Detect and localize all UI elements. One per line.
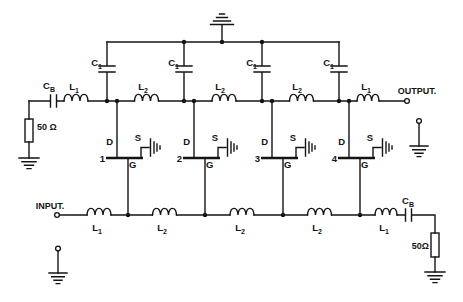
inductor-label: L1 <box>361 81 371 94</box>
bias-cap-1: C1 <box>91 42 115 101</box>
drain-label: D <box>183 136 190 147</box>
inductor-label: L1 <box>69 81 79 94</box>
gate-label: G <box>206 159 213 170</box>
bias-cap-label: C1 <box>323 57 334 70</box>
inductor-label: L1 <box>379 222 389 235</box>
capacitor-icon <box>331 42 347 101</box>
schematic-canvas: C1 C1 C1 C1 CB L1 L2 L2 L2 L1 <box>0 0 463 302</box>
bias-cap-2: C1 <box>168 42 192 101</box>
drain-label: D <box>338 136 345 147</box>
distributed-amplifier-schematic: C1 C1 C1 C1 CB L1 L2 L2 L2 L1 <box>0 0 463 302</box>
ground-icon <box>410 146 428 157</box>
fet-number: 3 <box>255 153 260 164</box>
input-terminal-node <box>55 213 60 218</box>
drain-label: D <box>106 136 113 147</box>
source-label: S <box>135 132 141 143</box>
source-ground-icon <box>228 139 238 156</box>
inductor-label: L2 <box>292 81 302 94</box>
inductor-label: L2 <box>157 222 167 235</box>
resistor-icon <box>431 233 439 257</box>
source-label: S <box>290 132 296 143</box>
fet-4: 4 D S G <box>332 101 392 215</box>
inductor-label: L2 <box>312 222 322 235</box>
inductor-icon <box>212 94 236 101</box>
input-label: INPUT. <box>36 201 65 211</box>
termination-resistor-label: 50Ω <box>412 241 429 251</box>
gate-line: L1 L2 L2 L2 L1 CB <box>59 195 435 235</box>
output-label: OUTPUT. <box>398 86 437 96</box>
source-label: S <box>367 132 373 143</box>
inductor-icon <box>64 94 88 101</box>
right-termination: 50Ω <box>412 233 445 283</box>
resistor-icon <box>25 119 33 142</box>
input-ground-terminal <box>49 246 67 283</box>
inductor-label: L2 <box>235 222 245 235</box>
gate-label: G <box>361 159 368 170</box>
coupling-capacitor-icon <box>406 209 412 221</box>
bias-cap-label: C1 <box>91 57 102 70</box>
fet-1: 1 D S G <box>100 101 160 215</box>
inductor-label: L2 <box>215 81 225 94</box>
inductor-icon <box>230 208 254 215</box>
inductor-icon <box>153 208 177 215</box>
ground-terminal-node <box>417 119 422 124</box>
fet-number: 1 <box>100 153 106 164</box>
source-ground-icon <box>306 139 316 156</box>
output-ground-terminal <box>410 119 428 157</box>
termination-resistor-label: 50 Ω <box>37 122 57 132</box>
ground-icon <box>49 273 67 284</box>
inductor-icon <box>357 94 379 101</box>
bias-cap-label: C1 <box>168 57 179 70</box>
inductor-label: L1 <box>92 222 102 235</box>
capacitor-icon <box>99 42 115 101</box>
capacitor-icon <box>254 42 270 101</box>
junction-dot <box>220 40 224 44</box>
fet-3: 3 D S G <box>255 101 315 215</box>
inductor-label: L2 <box>138 81 148 94</box>
output-terminal-node <box>405 99 410 104</box>
junction-dot <box>337 99 341 103</box>
gate-label: G <box>129 159 136 170</box>
inductor-icon <box>308 208 332 215</box>
source-ground-icon <box>383 139 393 156</box>
ground-icon <box>19 158 39 169</box>
fet-number: 4 <box>332 153 338 164</box>
ground-terminal-node <box>56 246 61 251</box>
ground-icon <box>425 272 445 283</box>
bias-cap-4: C1 <box>323 42 347 101</box>
fet-2: 2 D S G <box>177 101 237 215</box>
source-label: S <box>212 132 218 143</box>
coupling-cap-label: CB <box>43 80 55 93</box>
coupling-cap-label: CB <box>402 195 414 208</box>
fet-number: 2 <box>177 153 182 164</box>
drain-label: D <box>261 136 268 147</box>
bias-cap-3: C1 <box>246 42 270 101</box>
gate-label: G <box>284 159 291 170</box>
top-ground-icon <box>211 14 234 42</box>
source-ground-icon <box>151 139 161 156</box>
inductor-icon <box>87 208 111 215</box>
capacitor-icon <box>176 42 192 101</box>
junction-dot <box>260 99 264 103</box>
left-termination: 50 Ω <box>19 101 57 169</box>
inductor-icon <box>135 94 159 101</box>
input-terminal: INPUT. <box>36 201 65 217</box>
bias-cap-label: C1 <box>246 57 257 70</box>
inductor-icon <box>290 94 314 101</box>
inductor-icon <box>375 208 397 215</box>
drain-line: CB L1 L2 L2 L2 L1 <box>29 80 405 107</box>
bias-rail <box>107 14 339 44</box>
junction-dot <box>105 99 109 103</box>
junction-dot <box>182 99 186 103</box>
coupling-capacitor-icon <box>51 95 57 107</box>
